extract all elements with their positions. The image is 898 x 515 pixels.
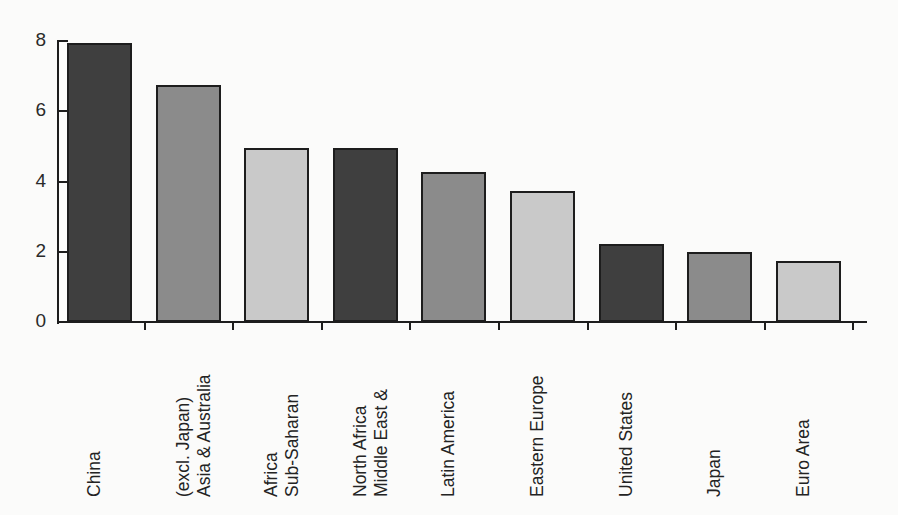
y-axis-tick-label-text: 6 — [12, 100, 46, 119]
bar — [776, 261, 841, 322]
y-axis-tick-label-text: 0 — [12, 311, 46, 330]
x-axis-tick — [232, 321, 234, 330]
bar — [244, 148, 309, 322]
y-axis-tick — [57, 40, 68, 42]
y-axis-tick-label: 4 — [0, 171, 46, 191]
bar — [333, 148, 398, 322]
y-axis-tick-label: 2 — [0, 241, 46, 261]
x-axis-tick — [409, 321, 411, 330]
bar — [67, 43, 132, 322]
x-axis-tick — [587, 321, 589, 330]
plot-area: 02468 — [0, 0, 898, 515]
bar-chart: 02468 China(excl. Japan)Asia & Australia… — [0, 0, 898, 515]
x-axis-tick — [498, 321, 500, 330]
y-axis-tick-label-text: 4 — [12, 171, 46, 190]
bar — [687, 252, 752, 322]
x-axis-tick — [675, 321, 677, 330]
x-axis-tick — [852, 321, 854, 330]
bar — [156, 85, 221, 322]
x-axis-tick — [321, 321, 323, 330]
y-axis-tick-label: 0 — [0, 311, 46, 331]
x-axis-tick — [144, 321, 146, 330]
bar — [421, 172, 486, 322]
y-axis-tick-label-text: 2 — [12, 241, 46, 260]
y-axis-tick-label-text: 8 — [12, 30, 46, 49]
bar — [599, 244, 664, 322]
y-axis-tick-label: 6 — [0, 100, 46, 120]
bar — [510, 191, 575, 322]
y-axis-tick-label: 8 — [0, 30, 46, 50]
x-axis-tick — [764, 321, 766, 330]
